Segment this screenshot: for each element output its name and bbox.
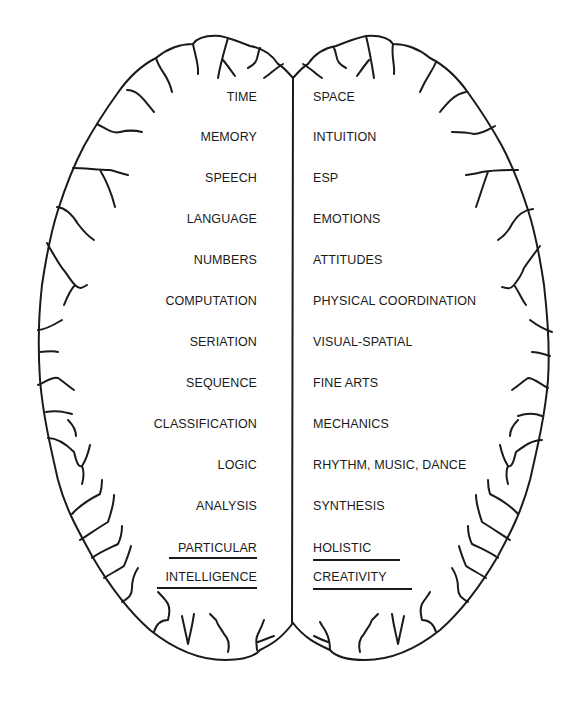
left-label-classification: CLASSIFICATION [154, 417, 257, 431]
underline-creativity [313, 588, 412, 590]
right-label-intuition: INTUITION [313, 130, 376, 144]
left-label-language: LANGUAGE [187, 212, 257, 226]
right-label-esp: ESP [313, 171, 338, 185]
underline-holistic [313, 559, 400, 561]
left-label-time: TIME [227, 90, 257, 104]
right-label-mechanics: MECHANICS [313, 417, 389, 431]
right-label-visual-spatial: VISUAL-SPATIAL [313, 335, 413, 349]
brain-outline [0, 0, 583, 703]
right-label-creativity: CREATIVITY [313, 570, 387, 584]
right-label-emotions: EMOTIONS [313, 212, 380, 226]
left-label-numbers: NUMBERS [194, 253, 257, 267]
underline-particular [169, 557, 257, 559]
right-label-holistic: HOLISTIC [313, 541, 371, 555]
underline-intelligence [157, 587, 257, 589]
right-label-rhythm-music-dance: RHYTHM, MUSIC, DANCE [313, 458, 466, 472]
right-label-fine-arts: FINE ARTS [313, 376, 378, 390]
left-label-logic: LOGIC [218, 458, 257, 472]
right-label-physical-coordination: PHYSICAL COORDINATION [313, 294, 476, 308]
left-label-speech: SPEECH [205, 171, 257, 185]
right-label-space: SPACE [313, 90, 355, 104]
left-label-analysis: ANALYSIS [196, 499, 257, 513]
longitudinal-fissure [292, 78, 293, 623]
left-label-computation: COMPUTATION [165, 294, 257, 308]
left-label-memory: MEMORY [200, 130, 257, 144]
right-label-attitudes: ATTITUDES [313, 253, 382, 267]
left-label-seriation: SERIATION [190, 335, 257, 349]
right-label-synthesis: SYNTHESIS [313, 499, 385, 513]
left-label-intelligence: INTELLIGENCE [165, 570, 257, 584]
left-label-particular: PARTICULAR [178, 541, 257, 555]
left-label-sequence: SEQUENCE [186, 376, 257, 390]
